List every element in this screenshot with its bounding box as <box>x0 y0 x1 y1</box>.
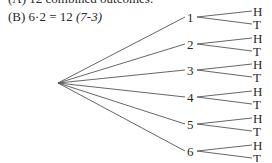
branch-line <box>197 44 252 51</box>
branch-line <box>58 83 185 124</box>
die-outcome-label: 4 <box>187 90 194 105</box>
branch-line <box>197 91 252 97</box>
die-outcome-label: 5 <box>187 117 194 132</box>
die-outcome-label: 2 <box>187 37 194 52</box>
branch-line <box>197 145 252 151</box>
die-outcome-label: 3 <box>187 63 194 78</box>
tree-diagram: 1HT2HT3HT4HT5HT6HT <box>0 0 272 162</box>
coin-outcome-tails: T <box>253 70 261 85</box>
coin-outcome-tails: T <box>253 151 261 163</box>
branch-line <box>197 17 252 24</box>
coin-outcome-tails: T <box>253 17 261 32</box>
branch-line <box>197 11 252 17</box>
branch-line <box>58 83 185 97</box>
branch-line <box>197 118 252 124</box>
branch-line <box>197 64 252 70</box>
die-outcome-label: 1 <box>187 10 194 25</box>
branch-line <box>197 151 252 158</box>
branch-line <box>58 70 185 83</box>
die-outcome-label: 6 <box>187 144 194 159</box>
branch-line <box>197 97 252 104</box>
coin-outcome-tails: T <box>253 97 261 112</box>
branch-line <box>197 124 252 131</box>
branch-line <box>197 70 252 77</box>
coin-outcome-tails: T <box>253 124 261 139</box>
tree-branches: 1HT2HT3HT4HT5HT6HT <box>58 4 262 163</box>
branch-line <box>197 38 252 44</box>
branch-line <box>58 83 185 151</box>
